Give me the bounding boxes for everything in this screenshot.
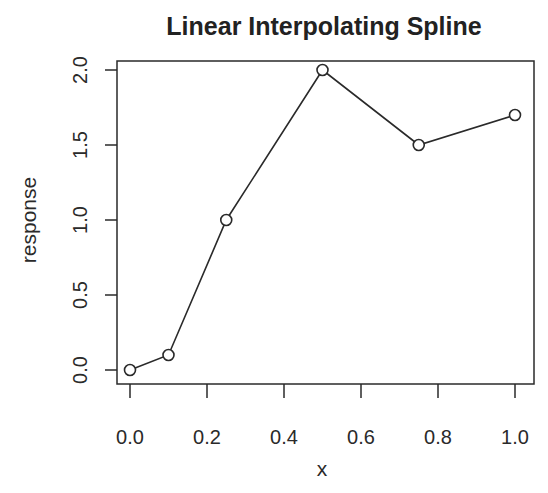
y-tick-label: 0.0 bbox=[69, 356, 91, 384]
plot-frame bbox=[117, 61, 534, 384]
x-tick-label: 0.4 bbox=[270, 426, 298, 448]
x-tick-label: 0.8 bbox=[424, 426, 452, 448]
y-tick-label: 1.0 bbox=[69, 206, 91, 234]
data-point-marker bbox=[163, 350, 174, 361]
y-tick-label: 1.5 bbox=[69, 131, 91, 159]
x-tick-label: 0.2 bbox=[193, 426, 221, 448]
chart-plot: 0.00.51.01.52.00.00.20.40.60.81.0xrespon… bbox=[0, 0, 548, 493]
x-tick-label: 0.0 bbox=[116, 426, 144, 448]
y-axis-label: response bbox=[17, 177, 40, 263]
data-point-marker bbox=[317, 65, 328, 76]
y-tick-label: 2.0 bbox=[69, 56, 91, 84]
data-point-marker bbox=[125, 365, 136, 376]
x-tick-label: 1.0 bbox=[501, 426, 529, 448]
x-axis-label: x bbox=[317, 457, 328, 480]
x-tick-label: 0.6 bbox=[347, 426, 375, 448]
data-point-marker bbox=[510, 110, 521, 121]
data-point-marker bbox=[413, 140, 424, 151]
data-point-marker bbox=[221, 215, 232, 226]
series-line bbox=[130, 70, 515, 370]
y-tick-label: 0.5 bbox=[69, 281, 91, 309]
